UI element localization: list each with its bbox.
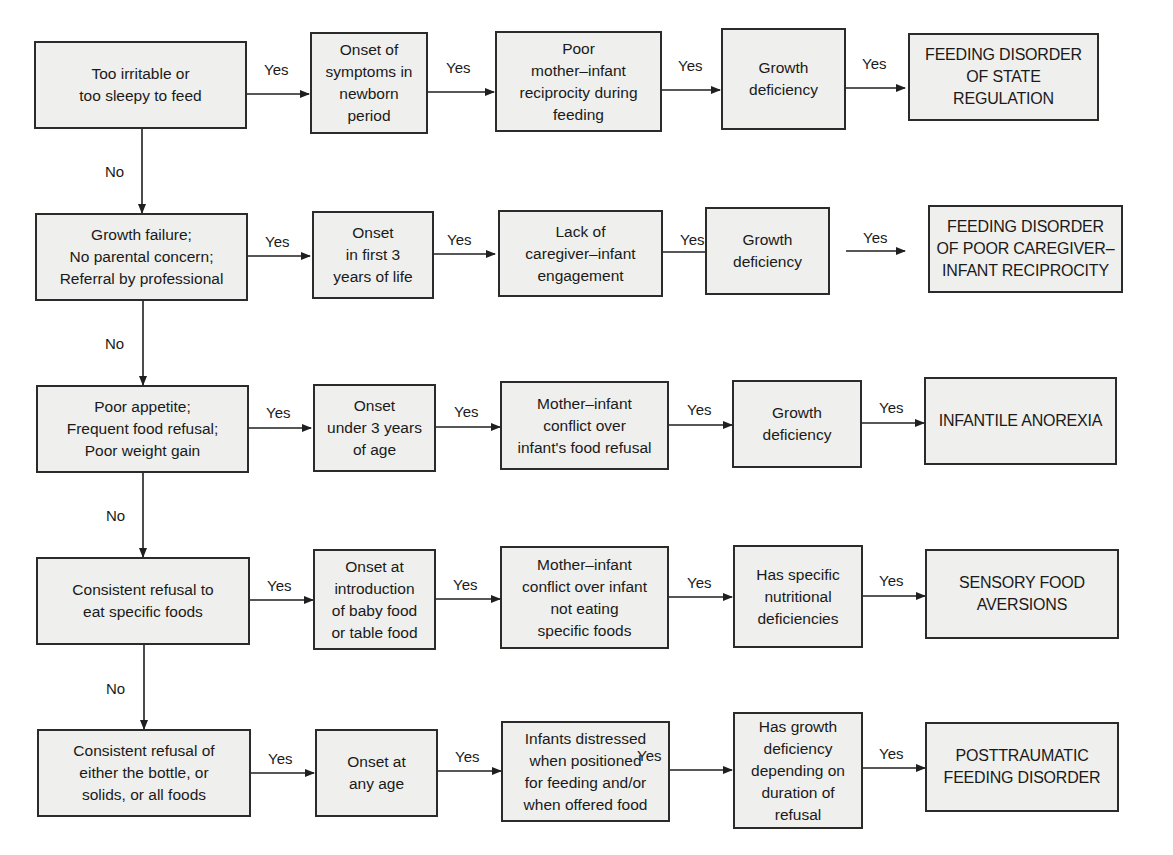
diagnosis-text: SENSORY FOOD AVERSIONS xyxy=(959,572,1085,616)
yes-label: Yes xyxy=(678,57,702,74)
diagnosis-text: POSTTRAUMATIC FEEDING DISORDER xyxy=(944,745,1101,789)
diagnosis-box-state-regulation: FEEDING DISORDER OF STATE REGULATION xyxy=(908,33,1099,121)
diagnosis-text: FEEDING DISORDER OF POOR CAREGIVER– INFA… xyxy=(937,216,1115,282)
interaction-box-posttraumatic: Infants distressed when positioned for f… xyxy=(501,721,670,822)
question-text: Consistent refusal to eat specific foods xyxy=(72,579,213,623)
interaction-text: Infants distressed when positioned for f… xyxy=(524,728,648,816)
yes-label: Yes xyxy=(446,59,470,76)
diagnosis-text: FEEDING DISORDER OF STATE REGULATION xyxy=(916,44,1091,110)
question-box-infantile-anorexia: Poor appetite; Frequent food refusal; Po… xyxy=(36,385,249,473)
no-label: No xyxy=(106,680,125,697)
yes-label: Yes xyxy=(264,61,288,78)
growth-text: Growth deficiency xyxy=(763,402,832,446)
question-text: Too irritable or too sleepy to feed xyxy=(79,63,201,107)
yes-label: Yes xyxy=(879,745,903,762)
question-text: Poor appetite; Frequent food refusal; Po… xyxy=(67,396,219,462)
onset-text: Onset at introduction of baby food or ta… xyxy=(331,556,417,644)
onset-text: Onset of symptoms in newborn period xyxy=(326,39,413,127)
yes-label: Yes xyxy=(267,577,291,594)
diagnosis-box-caregiver-reciprocity: FEEDING DISORDER OF POOR CAREGIVER– INFA… xyxy=(928,205,1123,293)
growth-text: Growth deficiency xyxy=(749,57,818,101)
yes-label: Yes xyxy=(637,747,661,764)
growth-text: Has growth deficiency depending on durat… xyxy=(751,716,845,826)
interaction-box-sensory-aversions: Mother–infant conflict over infant not e… xyxy=(500,546,669,649)
interaction-box-caregiver-reciprocity: Lack of caregiver–infant engagement xyxy=(498,210,663,297)
interaction-text: Mother–infant conflict over infant's foo… xyxy=(518,393,652,459)
yes-label: Yes xyxy=(680,231,704,248)
growth-box-caregiver-reciprocity: Growth deficiency xyxy=(705,207,830,295)
yes-label: Yes xyxy=(687,574,711,591)
question-box-sensory-aversions: Consistent refusal to eat specific foods xyxy=(36,557,250,645)
yes-label: Yes xyxy=(879,572,903,589)
interaction-text: Poor mother–infant reciprocity during fe… xyxy=(519,38,637,126)
onset-text: Onset in first 3 years of life xyxy=(333,222,412,288)
growth-box-state-regulation: Growth deficiency xyxy=(721,28,846,130)
interaction-text: Lack of caregiver–infant engagement xyxy=(525,221,635,287)
growth-text: Has specific nutritional deficiencies xyxy=(756,564,840,630)
yes-label: Yes xyxy=(266,404,290,421)
yes-label: Yes xyxy=(454,403,478,420)
question-box-caregiver-reciprocity: Growth failure; No parental concern; Ref… xyxy=(35,213,248,301)
growth-box-posttraumatic: Has growth deficiency depending on durat… xyxy=(733,712,863,829)
interaction-box-state-regulation: Poor mother–infant reciprocity during fe… xyxy=(495,31,662,132)
onset-box-state-regulation: Onset of symptoms in newborn period xyxy=(310,32,428,134)
no-label: No xyxy=(105,335,124,352)
growth-box-sensory-aversions: Has specific nutritional deficiencies xyxy=(733,545,863,648)
onset-box-posttraumatic: Onset at any age xyxy=(315,729,438,817)
yes-label: Yes xyxy=(455,748,479,765)
yes-label: Yes xyxy=(863,229,887,246)
diagnosis-text: INFANTILE ANOREXIA xyxy=(939,410,1103,432)
yes-label: Yes xyxy=(268,750,292,767)
growth-text: Growth deficiency xyxy=(733,229,802,273)
yes-label: Yes xyxy=(453,576,477,593)
question-text: Growth failure; No parental concern; Ref… xyxy=(60,224,224,290)
onset-text: Onset at any age xyxy=(347,751,406,795)
question-box-posttraumatic: Consistent refusal of either the bottle,… xyxy=(37,729,251,817)
question-box-state-regulation: Too irritable or too sleepy to feed xyxy=(34,41,247,129)
yes-label: Yes xyxy=(687,401,711,418)
growth-box-infantile-anorexia: Growth deficiency xyxy=(732,380,862,468)
onset-text: Onset under 3 years of age xyxy=(327,395,422,461)
onset-box-caregiver-reciprocity: Onset in first 3 years of life xyxy=(312,211,434,299)
onset-box-sensory-aversions: Onset at introduction of baby food or ta… xyxy=(313,549,436,650)
onset-box-infantile-anorexia: Onset under 3 years of age xyxy=(313,384,436,472)
yes-label: Yes xyxy=(862,55,886,72)
no-label: No xyxy=(105,163,124,180)
diagnosis-box-sensory-aversions: SENSORY FOOD AVERSIONS xyxy=(925,549,1119,639)
yes-label: Yes xyxy=(879,399,903,416)
diagnosis-box-infantile-anorexia: INFANTILE ANOREXIA xyxy=(924,377,1117,465)
no-label: No xyxy=(106,507,125,524)
interaction-text: Mother–infant conflict over infant not e… xyxy=(522,554,647,642)
yes-label: Yes xyxy=(447,231,471,248)
question-text: Consistent refusal of either the bottle,… xyxy=(73,740,214,806)
yes-label: Yes xyxy=(265,233,289,250)
interaction-box-infantile-anorexia: Mother–infant conflict over infant's foo… xyxy=(500,381,669,470)
diagnosis-box-posttraumatic: POSTTRAUMATIC FEEDING DISORDER xyxy=(925,722,1119,812)
